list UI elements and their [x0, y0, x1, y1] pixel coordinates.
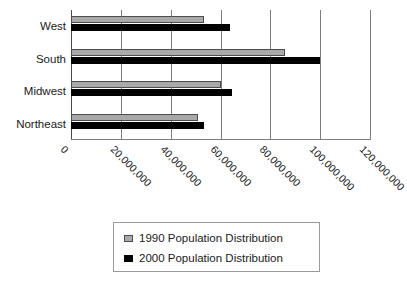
- bar-midwest-2000: [71, 89, 232, 96]
- bar-west-1990: [71, 16, 204, 23]
- category-label-midwest: Midwest: [24, 85, 66, 98]
- bar-south-2000: [71, 57, 320, 64]
- x-tick-label: 100,000,000: [308, 143, 358, 193]
- category-label-west: West: [40, 20, 66, 33]
- legend-item-1990: 1990 Population Distribution: [124, 230, 283, 246]
- legend-label-2000: 2000 Population Distribution: [139, 252, 283, 265]
- x-tick-label: 20,000,000: [108, 143, 154, 189]
- bar-group: West: [71, 10, 370, 43]
- bar-south-1990: [71, 49, 285, 56]
- legend-item-2000: 2000 Population Distribution: [124, 250, 283, 266]
- legend-swatch-2000-icon: [124, 255, 133, 262]
- bar-northeast-2000: [71, 122, 204, 129]
- bar-midwest-1990: [71, 81, 221, 88]
- bar-west-2000: [71, 24, 230, 31]
- category-label-northeast: Northeast: [16, 117, 66, 130]
- x-tick-label: 60,000,000: [208, 143, 254, 189]
- bar-group: Midwest: [71, 75, 370, 108]
- chart-legend: 1990 Population Distribution 2000 Popula…: [113, 222, 320, 272]
- bar-group: South: [71, 43, 370, 76]
- category-label-south: South: [36, 52, 66, 65]
- x-tick-label: 40,000,000: [158, 143, 204, 189]
- gridline: [370, 10, 371, 140]
- x-tick-label: 120,000,000: [358, 143, 407, 193]
- legend-swatch-1990-icon: [124, 235, 133, 242]
- bar-group: Northeast: [71, 108, 370, 141]
- plot-area: WestSouthMidwestNortheast: [71, 10, 370, 140]
- x-axis-line: [71, 139, 371, 140]
- x-tick-label: 0: [59, 143, 72, 156]
- legend-label-1990: 1990 Population Distribution: [139, 232, 283, 245]
- bar-northeast-1990: [71, 114, 198, 121]
- x-tick-label: 80,000,000: [258, 143, 304, 189]
